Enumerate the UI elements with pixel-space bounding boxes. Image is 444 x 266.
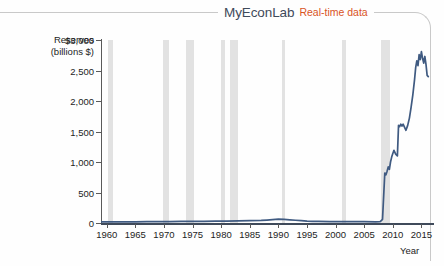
x-axis-title: Year — [400, 245, 419, 256]
y-axis-labels: 05001,0001,5002,0002,500$3,000 — [0, 0, 94, 266]
y-axis-tick-label: 2,500 — [70, 65, 94, 76]
x-axis-tick-label: 1980 — [211, 229, 232, 240]
x-axis-tick-mark — [250, 224, 251, 228]
x-axis-tick-mark — [278, 224, 279, 228]
plot-area — [101, 40, 430, 223]
x-axis-tick-label: 1995 — [296, 229, 317, 240]
x-axis-tick-mark — [336, 224, 337, 228]
x-axis-line — [101, 223, 434, 225]
y-axis-tick-label: 2,000 — [70, 96, 94, 107]
x-axis-tick-label: 1970 — [153, 229, 174, 240]
x-axis-tick-label: 1960 — [96, 229, 117, 240]
x-axis-tick-mark — [221, 224, 222, 228]
series-svg — [101, 40, 430, 223]
x-axis-tick-mark — [135, 224, 136, 228]
x-axis-tick-label: 2000 — [325, 229, 346, 240]
x-axis-tick-mark — [307, 224, 308, 228]
plot-clip — [101, 40, 430, 223]
y-axis-tick-label: 1,000 — [70, 157, 94, 168]
y-axis-tick-label: 1,500 — [70, 126, 94, 137]
x-axis-tick-mark — [193, 224, 194, 228]
x-axis-tick-label: 1965 — [125, 229, 146, 240]
chart-screenshot: MyEconLab Real-time data Reserves (billi… — [0, 0, 444, 266]
y-axis-tick-label: 500 — [78, 187, 94, 198]
x-axis-tick-mark — [164, 224, 165, 228]
x-axis-tick-mark — [421, 224, 422, 228]
x-axis-tick-mark — [364, 224, 365, 228]
x-axis-tick-label: 2015 — [411, 229, 432, 240]
myeconlab-brand-label: MyEconLab — [224, 5, 294, 20]
y-axis-tick-label: 0 — [89, 218, 94, 229]
x-axis-tick-label: 1990 — [268, 229, 289, 240]
y-axis-tick-label: $3,000 — [65, 35, 94, 46]
reserves-line-series — [101, 52, 428, 222]
x-axis-tick-label: 2010 — [382, 229, 403, 240]
x-axis-tick-mark — [393, 224, 394, 228]
x-axis-tick-label: 2005 — [354, 229, 375, 240]
header-banner: MyEconLab Real-time data — [218, 2, 374, 22]
realtime-data-label: Real-time data — [299, 6, 367, 18]
x-axis-tick-label: 1985 — [239, 229, 260, 240]
x-axis-tick-mark — [107, 224, 108, 228]
x-axis-tick-label: 1975 — [182, 229, 203, 240]
